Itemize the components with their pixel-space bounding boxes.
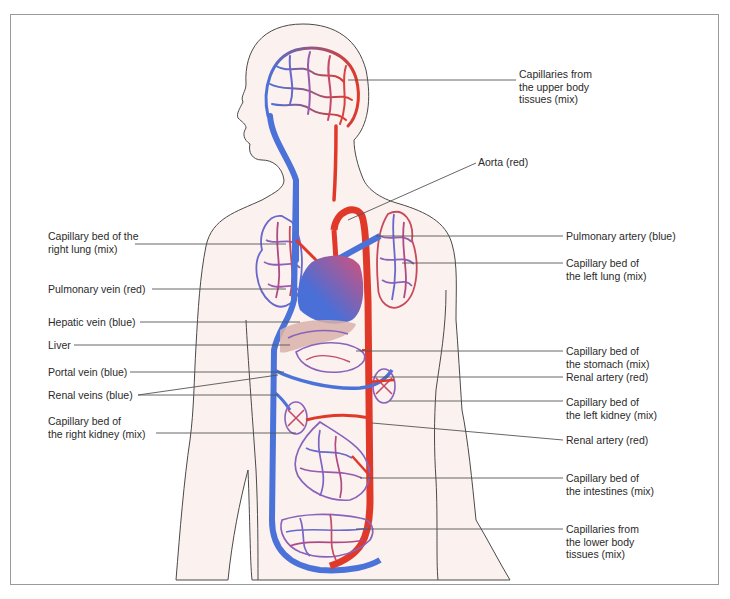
label-capillary-bed-right-kidney: Capillary bed of the right kidney (mix) [48, 415, 145, 440]
label-pulmonary-vein: Pulmonary vein (red) [48, 283, 145, 296]
label-line: Capillary bed of [48, 415, 145, 428]
label-capillary-bed-left-lung: Capillary bed of the left lung (mix) [566, 257, 647, 282]
label-line: Portal vein (blue) [48, 366, 127, 379]
label-line: Pulmonary vein (red) [48, 283, 145, 296]
label-portal-vein: Portal vein (blue) [48, 366, 127, 379]
label-line: the upper body [519, 81, 592, 94]
label-line: Capillaries from [566, 523, 639, 536]
label-line: Capillary bed of [566, 257, 647, 270]
label-line: Liver [48, 339, 71, 352]
label-line: Renal artery (red) [566, 434, 648, 447]
label-line: tissues (mix) [566, 548, 639, 561]
label-line: Capillary bed of [566, 472, 654, 485]
label-liver: Liver [48, 339, 71, 352]
label-line: the intestines (mix) [566, 485, 654, 498]
label-line: right lung (mix) [48, 243, 138, 256]
label-line: Pulmonary artery (blue) [566, 230, 676, 243]
label-renal-artery-2: Renal artery (red) [566, 434, 648, 447]
label-pulmonary-artery: Pulmonary artery (blue) [566, 230, 676, 243]
label-line: Renal veins (blue) [48, 389, 133, 402]
label-line: Aorta (red) [478, 156, 528, 169]
label-line: the stomach (mix) [566, 358, 649, 371]
label-capillary-bed-right-lung: Capillary bed of the right lung (mix) [48, 230, 138, 255]
label-line: the left lung (mix) [566, 270, 647, 283]
label-line: Capillaries from [519, 68, 592, 81]
label-hepatic-vein: Hepatic vein (blue) [48, 316, 136, 329]
label-line: Capillary bed of [566, 396, 657, 409]
label-line: the left kidney (mix) [566, 409, 657, 422]
label-aorta: Aorta (red) [478, 156, 528, 169]
label-renal-artery-1: Renal artery (red) [566, 371, 648, 384]
label-capillaries-lower-body: Capillaries from the lower body tissues … [566, 523, 639, 561]
label-line: the lower body [566, 536, 639, 549]
label-line: Capillary bed of [566, 345, 649, 358]
label-capillary-bed-left-kidney: Capillary bed of the left kidney (mix) [566, 396, 657, 421]
label-renal-veins: Renal veins (blue) [48, 389, 133, 402]
label-line: Hepatic vein (blue) [48, 316, 136, 329]
label-line: Capillary bed of the [48, 230, 138, 243]
label-capillary-bed-stomach: Capillary bed of the stomach (mix) [566, 345, 649, 370]
label-line: tissues (mix) [519, 93, 592, 106]
circulatory-system-illustration [0, 0, 730, 599]
label-line: the right kidney (mix) [48, 428, 145, 441]
label-line: Renal artery (red) [566, 371, 648, 384]
label-capillary-bed-intestines: Capillary bed of the intestines (mix) [566, 472, 654, 497]
label-capillaries-upper-body: Capillaries from the upper body tissues … [519, 68, 592, 106]
